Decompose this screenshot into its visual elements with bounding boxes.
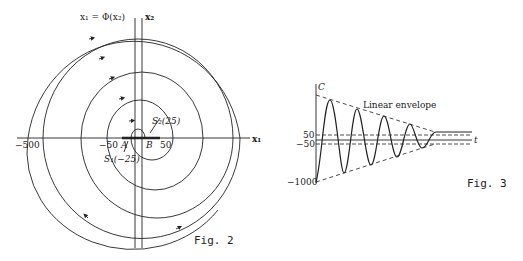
x2-axis-label: x₂ [145,12,154,22]
point-b-label: B [145,140,153,150]
tick-minus-1000: −1000 [287,177,318,187]
tick-minus-500: −500 [15,140,40,150]
s2-label: S₂(25) [152,116,181,126]
x1-axis-label: x₁ [252,134,261,144]
fig2-caption: Fig. 2 [194,234,234,247]
switching-line-label: x₁ = Φ(x₂) [80,12,125,22]
fig3-labels: C t Linear envelope 50 −50 −1000 Fig. 3 [287,82,507,190]
fig3-time-response [316,84,472,183]
t-axis-label: t [474,135,478,145]
fig2-phase-plane [17,18,250,249]
tick-50: 50 [160,140,172,150]
s1-label: S₁(−25) [104,154,140,164]
envelope-label: Linear envelope [363,100,436,110]
figure-page: x₁ = Φ(x₂) x₂ x₁ −500 −50 A B 50 S₁(−25)… [0,0,523,261]
spiral-trajectory [43,39,233,218]
c-axis-label: C [318,82,325,92]
point-a-label: A [120,140,128,150]
fig3-caption: Fig. 3 [467,177,507,190]
response-curve [316,100,472,182]
tick-minus-50: −50 [99,140,118,150]
fig2-labels: x₁ = Φ(x₂) x₂ x₁ −500 −50 A B 50 S₁(−25)… [15,12,261,247]
tick-minus-50: −50 [296,139,315,149]
diagram-canvas: x₁ = Φ(x₂) x₂ x₁ −500 −50 A B 50 S₁(−25)… [0,0,523,261]
